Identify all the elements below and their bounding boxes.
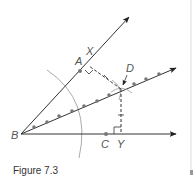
label-c: C	[101, 138, 109, 150]
point-a	[78, 69, 82, 73]
intersection-arc-1	[112, 80, 120, 100]
page-edge-mark	[190, 170, 193, 175]
point-c	[104, 132, 108, 136]
perpendicular-dx	[89, 66, 121, 89]
ray-ba	[21, 17, 129, 134]
pointer-d	[123, 75, 127, 85]
label-d: D	[126, 62, 134, 74]
label-x: X	[85, 45, 94, 57]
label-y: Y	[117, 138, 125, 150]
right-angle-x	[85, 70, 93, 74]
right-angle-y	[114, 127, 121, 134]
geometry-figure: A X D B C Y Figure 7.3	[0, 0, 194, 180]
label-a: A	[74, 55, 82, 67]
compass-arc	[47, 70, 82, 158]
label-b: B	[11, 129, 18, 141]
figure-caption: Figure 7.3	[13, 165, 58, 176]
